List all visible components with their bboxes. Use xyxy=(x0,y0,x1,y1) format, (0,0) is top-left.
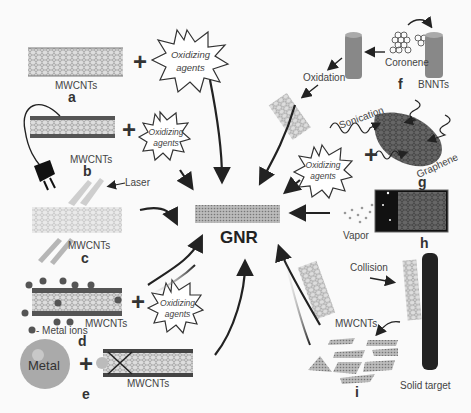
panel-letter-f: f xyxy=(398,76,403,92)
ox-line-1: Oxidizing xyxy=(149,127,184,137)
label-collision: Collision xyxy=(350,262,388,273)
ox-line-2: agents xyxy=(310,171,336,181)
nanotube-c xyxy=(32,178,125,265)
gnr-fragments-i xyxy=(308,338,398,384)
label-mwcnts-a: MWCNTs xyxy=(55,80,97,91)
plus-sign-b: + xyxy=(122,118,136,142)
plus-sign-a: + xyxy=(133,50,147,74)
plus-sign-e: + xyxy=(79,352,93,376)
vapor-particles-h xyxy=(344,204,374,224)
nanotube-i xyxy=(298,261,336,320)
ox-line-1: Oxidizing xyxy=(306,160,341,170)
center-label-gnr: GNR xyxy=(220,228,258,248)
label-mwcnts-d: MWCNTs xyxy=(85,318,127,329)
panel-letter-c: c xyxy=(81,250,89,266)
ox-line-2: agents xyxy=(165,309,191,319)
ox-line-1: Oxidizing xyxy=(160,298,195,308)
panel-letter-d: d xyxy=(78,333,87,349)
oxidizing-agents-label-b: Oxidizingagents xyxy=(145,127,187,150)
solid-target-i xyxy=(402,253,438,370)
panel-letter-a: a xyxy=(68,89,76,105)
label-metal: Metal xyxy=(28,358,60,373)
panel-letter-b: b xyxy=(83,163,92,179)
bnnt-cylinder-f xyxy=(425,32,443,78)
unzipped-tube-f xyxy=(269,93,311,140)
panel-letter-i: i xyxy=(355,384,359,400)
label-mwcnts-e: MWCNTs xyxy=(127,378,169,389)
panel-letter-g: g xyxy=(418,174,427,190)
vapor-chamber-h xyxy=(375,190,448,232)
nanotube-b xyxy=(24,105,115,190)
bnnt-f xyxy=(345,32,362,79)
label-bnnts: BNNTs xyxy=(418,79,449,90)
coronene-f xyxy=(390,32,427,53)
label-vapor: Vapor xyxy=(343,230,369,241)
plus-sign-g: + xyxy=(364,143,378,167)
label-solid-target: Solid target xyxy=(400,380,451,391)
label-coronene: Coronene xyxy=(385,57,429,68)
gnr-ribbon xyxy=(195,205,280,223)
oxidizing-agents-label-d: Oxidizingagents xyxy=(155,298,200,321)
ox-line-2: agents xyxy=(153,138,179,148)
panel-letter-e: e xyxy=(82,386,90,402)
nanotube-a xyxy=(28,48,123,76)
oxidizing-agents-label-a: Oxidizingagents xyxy=(163,49,218,75)
oxidizing-agents-label-g: Oxidizingagents xyxy=(302,160,344,183)
graphene-g xyxy=(330,100,450,166)
nanotube-e xyxy=(96,349,193,377)
plus-sign-d: + xyxy=(131,290,145,314)
label-mwcnts-i: MWCNTs xyxy=(335,318,377,329)
label-oxidation: Oxidation xyxy=(303,72,345,83)
label-laser: Laser xyxy=(125,177,150,188)
label-mwcnts-c: MWCNTs xyxy=(68,240,110,251)
ox-line-1: Oxidizing xyxy=(171,49,210,60)
ox-line-2: agents xyxy=(176,62,205,73)
panel-letter-h: h xyxy=(420,235,429,251)
